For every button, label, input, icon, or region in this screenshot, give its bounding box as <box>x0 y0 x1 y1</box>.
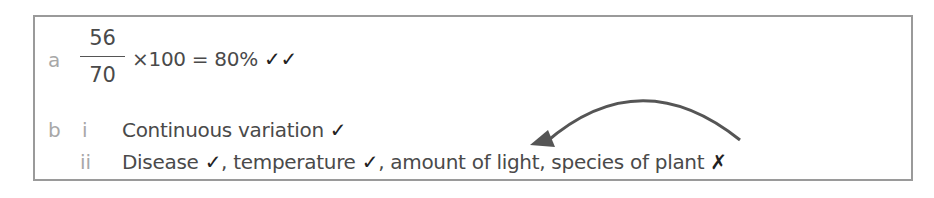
curved-arrow-icon <box>0 0 934 198</box>
